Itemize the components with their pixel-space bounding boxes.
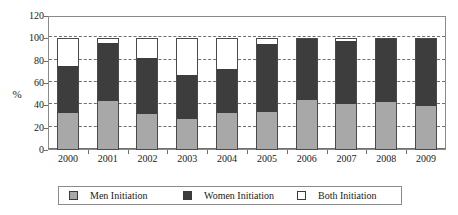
gridline-0	[49, 148, 445, 149]
chart-legend: Men InitiationWomen InitiationBoth Initi…	[58, 186, 402, 205]
x-tick-label-2002: 2002	[128, 153, 168, 164]
legend-label-2: Both Initiation	[318, 190, 377, 201]
y-axis-title: %	[8, 88, 26, 100]
gridline-40	[49, 103, 445, 104]
y-tick-label-20: 20	[16, 122, 44, 133]
legend-swatch-icon-2	[297, 191, 306, 200]
x-tick-label-2009: 2009	[406, 153, 446, 164]
x-tick-label-2004: 2004	[207, 153, 247, 164]
y-tick-mark-0	[44, 150, 48, 151]
legend-label-0: Men Initiation	[90, 190, 148, 201]
gridline-80	[49, 59, 445, 60]
y-tick-label-0: 0	[16, 144, 44, 155]
legend-label-1: Women Initiation	[204, 190, 274, 201]
y-tick-mark-100	[44, 38, 48, 39]
legend-swatch-icon-1	[183, 191, 192, 200]
gridline-100	[49, 36, 445, 37]
legend-item-1[interactable]: Women Initiation	[173, 190, 287, 201]
plot-area	[48, 16, 446, 150]
legend-item-0[interactable]: Men Initiation	[59, 190, 173, 201]
x-tick-label-2006: 2006	[287, 153, 327, 164]
y-tick-mark-20	[44, 128, 48, 129]
y-tick-label-80: 80	[16, 55, 44, 66]
y-tick-label-120: 120	[16, 10, 44, 21]
stacked-bar-chart: % 020406080100120 2000200120022003200420…	[0, 0, 458, 215]
x-tick-label-2007: 2007	[327, 153, 367, 164]
y-tick-mark-80	[44, 61, 48, 62]
gridline-20	[49, 126, 445, 127]
y-tick-label-100: 100	[16, 32, 44, 43]
legend-swatch-icon-0	[69, 191, 78, 200]
y-tick-mark-60	[44, 83, 48, 84]
y-tick-mark-40	[44, 105, 48, 106]
y-tick-label-60: 60	[16, 77, 44, 88]
legend-item-2[interactable]: Both Initiation	[287, 190, 401, 201]
y-tick-mark-120	[44, 16, 48, 17]
x-tick-label-2008: 2008	[366, 153, 406, 164]
x-tick-label-2003: 2003	[167, 153, 207, 164]
x-axis-labels: 2000200120022003200420052006200720082009	[48, 153, 446, 164]
y-tick-label-40: 40	[16, 99, 44, 110]
x-tick-label-2000: 2000	[48, 153, 88, 164]
x-tick-label-2001: 2001	[88, 153, 128, 164]
x-tick-label-2005: 2005	[247, 153, 287, 164]
gridline-60	[49, 81, 445, 82]
